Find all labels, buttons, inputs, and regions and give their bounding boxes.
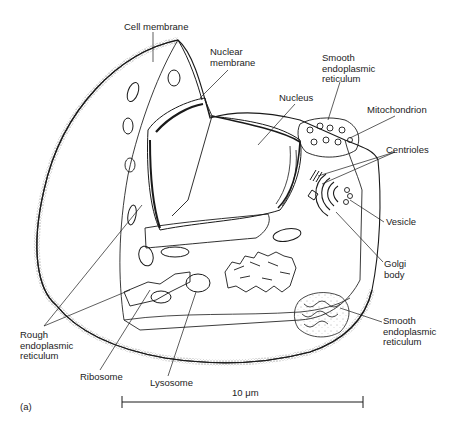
rough-er-sheet xyxy=(124,272,190,306)
label-lysosome: Lysosome xyxy=(150,378,193,389)
label-mitochondrion: Mitochondrion xyxy=(367,105,427,116)
cell-diagram: Cell membrane Nuclear membrane Smooth en… xyxy=(0,0,455,433)
panel-label: (a) xyxy=(20,402,32,413)
label-cell-membrane: Cell membrane xyxy=(124,22,188,33)
label-rough-er: Rough endoplasmic reticulum xyxy=(20,330,73,362)
vesicle-shapes xyxy=(344,188,353,205)
smooth-er-top-mesh xyxy=(298,118,359,157)
label-nuclear-membrane: Nuclear membrane xyxy=(210,47,255,68)
label-vesicle: Vesicle xyxy=(386,217,416,228)
central-er-cluster xyxy=(225,252,296,292)
scale-bar-label: 10 μm xyxy=(232,388,259,399)
lysosome-shape xyxy=(186,274,210,292)
label-nucleus: Nucleus xyxy=(279,93,313,104)
label-centrioles: Centrioles xyxy=(386,145,429,156)
mitochondria xyxy=(123,81,302,268)
smooth-er-bottom-mesh xyxy=(294,293,349,337)
centrioles-shape xyxy=(308,170,322,200)
label-golgi-body: Golgi body xyxy=(384,259,406,280)
label-ribosome: Ribosome xyxy=(80,372,123,383)
label-smooth-er-top: Smooth endoplasmic reticulum xyxy=(322,53,375,85)
golgi-shape xyxy=(316,174,338,216)
label-smooth-er-bottom: Smooth endoplasmic reticulum xyxy=(383,316,436,348)
